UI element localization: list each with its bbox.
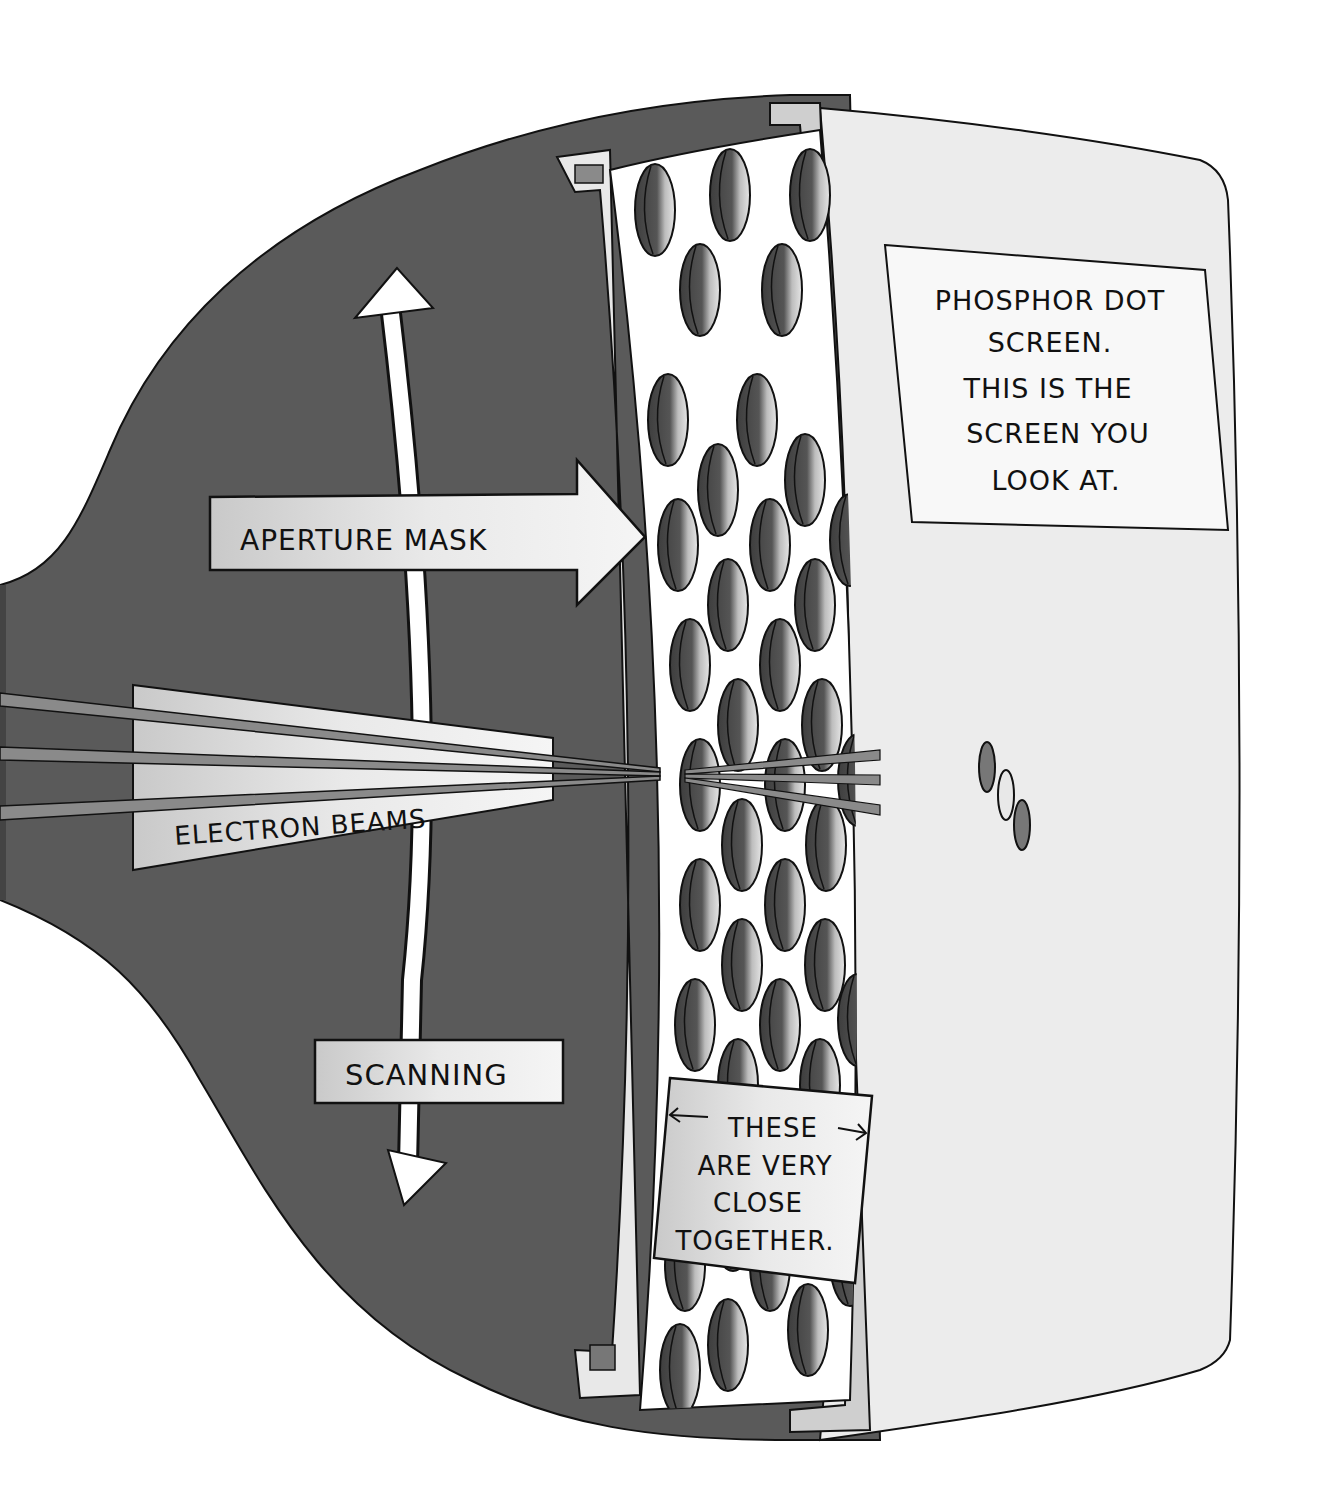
- spacing-note-line-3: CLOSE: [713, 1188, 803, 1218]
- crt-diagram: APERTURE MASK ELECTRON BEAMS SCANNING PH…: [0, 0, 1323, 1508]
- phosphor-dot-1: [979, 742, 995, 792]
- phosphor-dot-2: [998, 770, 1014, 820]
- screen-note-line-3: THIS IS THE: [962, 373, 1132, 404]
- screen-note-line-1: PHOSPHOR DOT: [935, 285, 1166, 316]
- tube-neck-edge: [0, 585, 6, 900]
- spacing-note-line-1: THESE: [727, 1113, 818, 1143]
- scanning-label: SCANNING: [345, 1058, 508, 1092]
- phosphor-dot-3: [1014, 800, 1030, 850]
- screen-note-line-2: SCREEN.: [988, 327, 1113, 358]
- aperture-mask-label: APERTURE MASK: [240, 524, 487, 557]
- screen-note-box: PHOSPHOR DOT SCREEN. THIS IS THE SCREEN …: [885, 245, 1228, 530]
- scanning-label-box: SCANNING: [315, 1040, 563, 1103]
- screen-note-line-4: SCREEN YOU: [966, 418, 1150, 449]
- spacing-note-line-4: TOGETHER.: [674, 1226, 834, 1256]
- spacing-note-line-2: ARE VERY: [697, 1151, 832, 1181]
- spacing-note-box: THESE ARE VERY CLOSE TOGETHER.: [654, 1078, 872, 1283]
- screen-note-line-5: LOOK AT.: [991, 465, 1120, 496]
